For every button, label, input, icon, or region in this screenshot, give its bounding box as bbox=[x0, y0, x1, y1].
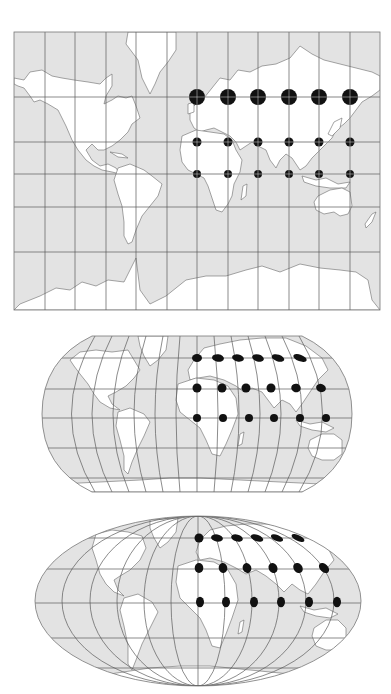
robinson-map bbox=[42, 336, 352, 492]
projection-comparison-figure bbox=[0, 0, 391, 694]
mercator-map bbox=[14, 32, 380, 310]
mollweide-map bbox=[35, 516, 362, 686]
